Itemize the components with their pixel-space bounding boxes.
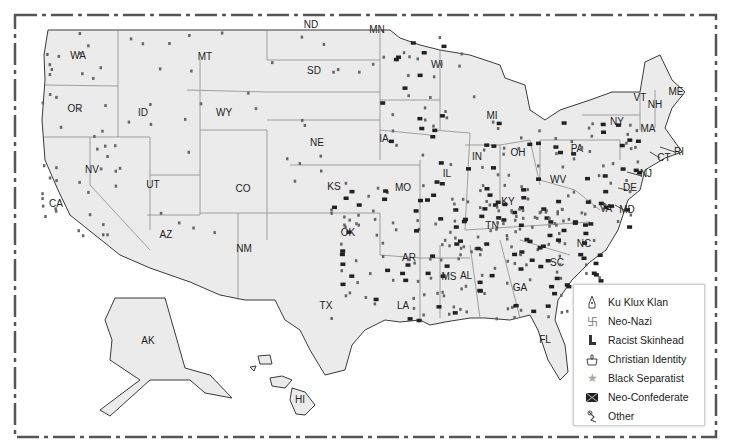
neo-confederate-marker [558,151,563,155]
neo-confederate-marker [530,259,535,263]
state-label-mn: MN [369,24,385,35]
neo-confederate-marker [431,194,436,198]
group-marker [529,278,532,281]
neo-confederate-marker [385,269,390,273]
neo-confederate-marker [546,304,551,308]
swastika-icon: 卐 [582,313,602,329]
state-label-ne: NE [310,137,324,148]
state-label-la: LA [397,300,410,311]
group-marker [504,184,507,187]
group-marker [301,36,304,39]
neo-confederate-marker [419,127,424,131]
group-marker [506,282,509,285]
group-marker [506,238,509,241]
neo-confederate-marker [350,190,355,194]
group-marker [323,43,326,46]
neo-confederate-marker [479,215,484,219]
group-marker [479,206,482,209]
group-marker [392,221,395,224]
neo-confederate-marker [430,254,435,258]
group-marker [160,212,163,215]
state-label-vt: VT [634,92,647,103]
neo-confederate-marker [374,298,379,302]
neo-confederate-marker [548,220,553,224]
other-icon [582,410,602,423]
neo-confederate-marker [432,129,437,133]
group-marker [630,147,633,150]
group-marker [413,262,416,265]
neo-confederate-marker [519,267,524,271]
group-marker [168,42,171,45]
group-marker [636,129,639,132]
state-label-nh: NH [648,99,662,110]
neo-confederate-marker [582,257,587,261]
group-marker [593,205,596,208]
group-marker [538,129,541,132]
group-marker [515,215,518,218]
neo-confederate-marker [555,277,560,281]
group-marker [610,182,613,185]
state-label-mt: MT [198,51,212,62]
group-marker [60,126,63,129]
map-legend: Ku Klux Klan 卐 Neo-Nazi Racist Skinhead … [573,284,705,426]
group-marker [458,65,461,68]
group-marker [87,191,90,194]
group-marker [440,63,443,66]
state-label-hi: HI [295,394,305,405]
group-marker [562,220,565,223]
group-marker [520,136,523,139]
group-marker [444,239,447,242]
neo-confederate-marker [496,216,501,220]
group-marker [192,227,195,230]
neo-confederate-marker [549,285,554,289]
group-marker [213,231,216,234]
neo-confederate-marker [496,201,501,205]
group-marker [559,263,562,266]
neo-confederate-marker [445,264,450,268]
neo-confederate-marker [521,196,526,200]
group-marker [355,222,358,225]
group-marker [255,107,258,110]
neo-confederate-marker [636,140,641,144]
group-marker [374,302,377,305]
group-marker [520,309,523,312]
neo-confederate-marker [565,283,570,287]
group-marker [79,32,82,35]
neo-confederate-marker [531,310,536,314]
group-marker [466,310,469,313]
group-marker [89,213,92,216]
neo-confederate-marker [521,188,526,192]
group-marker [585,272,588,275]
group-marker [422,154,425,157]
state-label-sd: SD [307,65,321,76]
group-marker [345,294,348,297]
neo-confederate-marker [497,122,502,126]
group-marker [51,68,54,71]
group-marker [492,121,495,124]
state-label-ut: UT [146,179,159,190]
neo-confederate-marker [417,319,422,323]
state-label-me: ME [669,86,684,97]
neo-confederate-marker [414,229,419,233]
neo-confederate-marker [458,239,463,243]
neo-confederate-marker [601,131,606,135]
group-marker [422,184,425,187]
group-marker [78,108,81,111]
legend-item-racist-skinhead: Racist Skinhead [582,331,684,349]
group-marker [514,230,517,233]
neo-confederate-marker [553,145,558,149]
group-marker [560,294,563,297]
group-marker [506,234,509,237]
group-marker [374,218,377,221]
group-marker [96,148,99,151]
group-marker [463,245,466,248]
group-marker [367,195,370,198]
state-label-al: AL [460,270,473,281]
group-marker [408,55,411,58]
group-marker [534,216,537,219]
group-marker [566,310,569,313]
legend-label: Other [608,410,634,422]
group-marker [555,152,558,155]
group-marker [142,42,145,45]
neo-confederate-marker [438,217,443,221]
